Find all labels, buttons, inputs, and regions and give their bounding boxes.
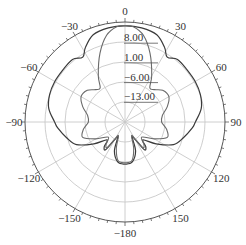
angle-tick bbox=[41, 179, 43, 180]
angle-tick bbox=[59, 43, 61, 45]
radial-label: −6.00 bbox=[124, 71, 150, 83]
grid-spoke bbox=[125, 122, 212, 172]
angle-tick bbox=[182, 38, 183, 40]
angle-tick bbox=[82, 213, 83, 215]
angle-label: −30 bbox=[61, 20, 79, 32]
angle-tick bbox=[82, 29, 83, 31]
angle-tick bbox=[207, 63, 209, 64]
angle-tick bbox=[189, 199, 191, 201]
angle-tick bbox=[167, 29, 168, 31]
angle-label: −150 bbox=[58, 212, 81, 224]
radial-axis-labels: 8.001.00−6.00−13.00 bbox=[124, 31, 158, 102]
angle-tick bbox=[29, 87, 31, 88]
angle-tick bbox=[202, 56, 204, 58]
angle-tick bbox=[46, 56, 48, 58]
angle-label: 0 bbox=[122, 5, 128, 17]
angle-tick bbox=[90, 216, 91, 218]
angle-tick bbox=[159, 26, 160, 28]
angle-tick bbox=[207, 179, 209, 180]
grid-spoke bbox=[38, 122, 125, 172]
angle-label: 120 bbox=[213, 172, 230, 184]
angle-tick bbox=[219, 156, 221, 157]
angle-tick bbox=[202, 186, 204, 188]
angle-label: 90 bbox=[231, 116, 243, 128]
angle-tick bbox=[73, 32, 75, 35]
angle-tick bbox=[159, 216, 160, 218]
angle-label: −90 bbox=[5, 116, 23, 128]
polar-chart: 0306090120150−180−150−120−90−60−30 8.001… bbox=[0, 0, 246, 245]
angle-tick bbox=[216, 164, 218, 165]
angle-tick bbox=[46, 186, 48, 188]
grid-spoke bbox=[75, 122, 125, 209]
angle-label: 150 bbox=[172, 212, 189, 224]
angle-tick bbox=[189, 43, 191, 45]
angle-tick bbox=[53, 193, 55, 195]
angle-tick bbox=[41, 63, 43, 64]
angle-tick bbox=[175, 32, 177, 35]
angle-tick bbox=[29, 156, 31, 157]
radial-label: 8.00 bbox=[124, 31, 144, 43]
angle-tick bbox=[66, 204, 67, 206]
grid-spoke bbox=[125, 122, 175, 209]
radial-label: −13.00 bbox=[124, 90, 155, 102]
angle-tick bbox=[32, 164, 34, 165]
radial-label: 1.00 bbox=[124, 51, 144, 63]
angle-tick bbox=[196, 193, 198, 195]
angle-label: −180 bbox=[114, 227, 137, 239]
angle-label: −120 bbox=[18, 172, 41, 184]
angle-label: −60 bbox=[20, 61, 38, 73]
angle-tick bbox=[66, 38, 67, 40]
angle-tick bbox=[196, 50, 198, 52]
angle-tick bbox=[32, 79, 34, 80]
angle-tick bbox=[212, 70, 215, 72]
grid-spoke bbox=[75, 35, 125, 122]
angle-tick bbox=[59, 199, 61, 201]
angle-label: 60 bbox=[216, 61, 228, 73]
angle-tick bbox=[90, 26, 91, 28]
angle-tick bbox=[216, 79, 218, 80]
angle-label: 30 bbox=[175, 20, 187, 32]
angle-tick bbox=[182, 204, 183, 206]
angle-tick bbox=[219, 87, 221, 88]
angle-tick bbox=[167, 213, 168, 215]
angle-tick bbox=[53, 50, 55, 52]
